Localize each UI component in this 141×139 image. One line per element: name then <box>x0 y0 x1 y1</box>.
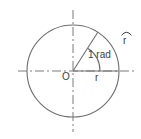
arc-length-letter: r <box>122 36 126 46</box>
arc-length-label: r <box>122 36 126 46</box>
diagram-canvas <box>0 0 141 139</box>
angle-label: 1 rad <box>88 50 111 60</box>
radius-label: r <box>95 73 98 83</box>
radian-diagram: O r 1 rad r <box>0 0 141 139</box>
origin-label: O <box>62 72 70 82</box>
